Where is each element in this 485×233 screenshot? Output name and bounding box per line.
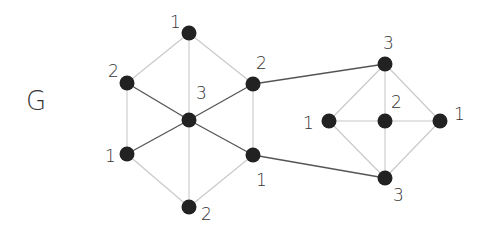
node-h_lr [246, 148, 261, 163]
edge-h_ul-h_c [127, 83, 189, 120]
node-h_ll [120, 147, 135, 162]
node-label-d_bot: 3 [393, 185, 404, 205]
node-label-h_bot: 2 [201, 204, 212, 224]
edge-h_ll-h_bot [127, 154, 189, 207]
edge-h_top-h_ul [127, 33, 189, 83]
node-d_top [378, 57, 393, 72]
graph-title: G [26, 86, 46, 116]
node-h_c [182, 113, 197, 128]
node-d_bot [378, 171, 393, 186]
node-d_c [378, 114, 393, 129]
node-label-h_top: 1 [170, 12, 181, 32]
node-label-h_ll: 1 [105, 146, 116, 166]
labels-group: 122311231213 [105, 12, 465, 224]
graph-svg: G 122311231213 [0, 0, 485, 233]
node-label-d_top: 3 [383, 33, 394, 53]
edge-h_ll-h_c [127, 120, 189, 154]
node-label-d_c: 2 [391, 92, 402, 112]
edges-group [127, 33, 440, 207]
node-label-d_r: 1 [454, 104, 465, 124]
node-label-d_l: 1 [303, 113, 314, 133]
node-h_bot [182, 200, 197, 215]
node-label-h_c: 3 [196, 83, 207, 103]
node-label-h_lr: 1 [256, 170, 267, 190]
edge-h_lr-h_c [189, 120, 253, 155]
edge-d_bot-d_r [385, 121, 440, 178]
edge-d_top-d_l [329, 64, 385, 121]
node-label-h_ur: 2 [256, 53, 267, 73]
node-d_r [433, 114, 448, 129]
node-h_ur [246, 77, 261, 92]
edge-h_lr-h_bot [189, 155, 253, 207]
node-h_top [182, 26, 197, 41]
node-h_ul [120, 76, 135, 91]
edge-h_ur-d_top [253, 64, 385, 84]
edge-h_top-h_ur [189, 33, 253, 84]
node-d_l [322, 114, 337, 129]
node-label-h_ul: 2 [108, 61, 119, 81]
graph-diagram: G 122311231213 [0, 0, 485, 233]
